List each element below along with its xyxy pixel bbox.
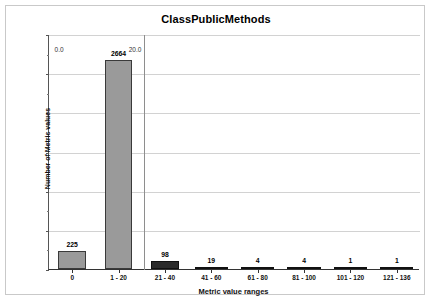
bar[interactable]: [105, 60, 133, 269]
chart-frame: ClassPublicMethods 05001,0001,5002,0002,…: [5, 5, 425, 295]
bar[interactable]: [195, 267, 228, 269]
bar[interactable]: [287, 267, 320, 269]
bar[interactable]: [58, 251, 86, 269]
range-annotation: 0.0: [55, 46, 64, 53]
plot-area: 05001,0001,5002,0002,5003,000 01 - 2021 …: [48, 35, 419, 270]
bar[interactable]: [334, 267, 367, 269]
bar[interactable]: [241, 267, 274, 269]
bar-value-label: 1: [372, 257, 422, 264]
chart-title: ClassPublicMethods: [6, 13, 426, 25]
x-tick-mark: [72, 270, 73, 273]
range-marker-line: [144, 35, 145, 270]
x-axis-label: Metric value ranges: [48, 287, 419, 296]
x-tick-mark: [397, 270, 398, 273]
x-tick-mark: [258, 270, 259, 273]
x-tick-mark: [165, 270, 166, 273]
bar-value-label: 98: [140, 251, 190, 258]
x-tick-label: 121 - 136: [367, 274, 427, 281]
bar-value-label: 4: [279, 257, 329, 264]
bar-value-label: 19: [186, 257, 236, 264]
bar[interactable]: [151, 261, 179, 269]
gridline: [49, 35, 420, 36]
x-tick-mark: [350, 270, 351, 273]
bar[interactable]: [380, 267, 413, 269]
x-tick-mark: [304, 270, 305, 273]
bar-value-label: 1: [325, 257, 375, 264]
bar-value-label: 4: [233, 257, 283, 264]
x-tick-mark: [211, 270, 212, 273]
range-annotation: 20.0: [129, 46, 142, 53]
x-tick-mark: [119, 270, 120, 273]
y-axis-label: Number of Metric values: [44, 0, 51, 302]
bar-value-label: 225: [47, 241, 97, 248]
